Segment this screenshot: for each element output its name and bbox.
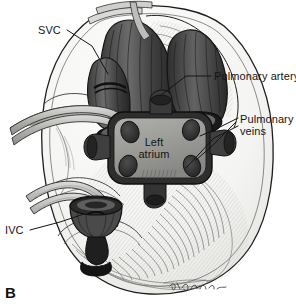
anatomical-figure-panel: SVC Pulmonary artery Pulmonary veins Lef… <box>0 0 296 307</box>
heart-anatomy-illustration <box>0 0 296 307</box>
panel-letter: B <box>5 284 16 301</box>
